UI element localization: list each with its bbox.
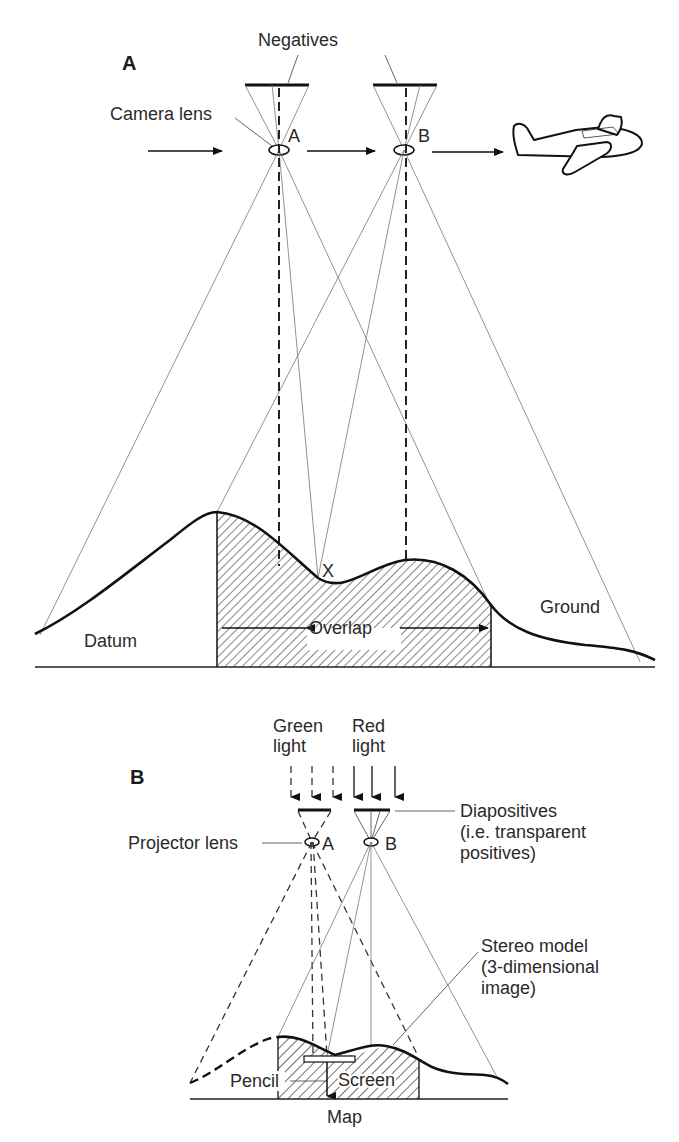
station-a-label: A [288,126,300,146]
negatives-leader-a [288,55,298,83]
overlap-label: Overlap [309,618,372,638]
stereo-model-label: Stereo model [481,936,588,956]
diapositives-label-3: positives) [460,843,536,863]
point-x-label: X [322,561,334,581]
ray-b-to-x [318,150,404,578]
screen-label: Screen [338,1070,395,1090]
airplane-icon [513,115,642,174]
green-ray-right [312,842,418,1056]
projector-a-label: A [322,834,334,854]
panel-b: B Green light Red light Diapositives (i.… [128,716,599,1127]
stereo-model-leader [393,952,478,1045]
datum-label: Datum [84,631,137,651]
red-ray-right [371,842,497,1077]
ground-label: Ground [540,597,600,617]
negatives-leader-b [385,55,397,83]
green-light-label: Green [273,716,323,736]
red-ray-left [278,842,371,1037]
diapositives-label: Diapositives [460,801,557,821]
panel-a: A Negatives Camera lens A B [35,30,655,668]
green-light-label-2: light [273,736,306,756]
camera-lens-leader [235,118,272,146]
screen-plate [304,1056,355,1062]
red-light-label-2: light [352,736,385,756]
map-label: Map [327,1107,362,1127]
camera-lens-label: Camera lens [110,104,212,124]
station-b-label: B [418,126,430,146]
projector-lens-label: Projector lens [128,833,238,853]
stereo-photogrammetry-diagram: A Negatives Camera lens A B [0,0,679,1142]
ray-a-to-x [279,150,318,578]
ray-b-left [217,150,404,512]
diapositives-label-2: (i.e. transparent [460,822,586,842]
green-ray-center [311,842,313,1056]
projector-b-label: B [385,834,397,854]
panel-b-label: B [130,766,144,788]
stereo-model-label-2: (3-dimensional [481,957,599,977]
ray-a-right [279,150,490,605]
red-ray-to-screen [327,842,371,1056]
pencil-label: Pencil [230,1071,279,1091]
stereo-model-label-3: image) [481,978,536,998]
panel-a-label: A [122,52,136,74]
negatives-label: Negatives [258,30,338,50]
red-light-label: Red [352,716,385,736]
